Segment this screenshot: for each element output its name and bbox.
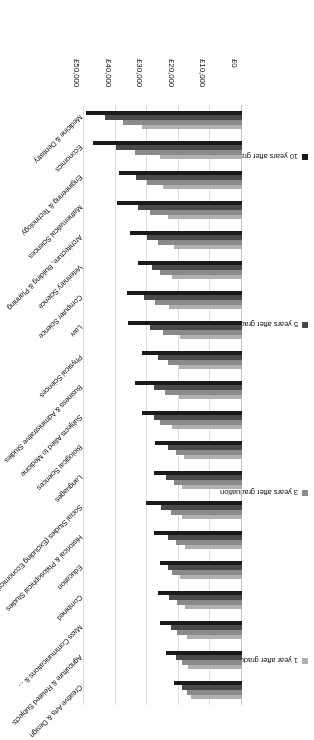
bar [176, 540, 242, 545]
bar [174, 245, 242, 250]
category-label: Architecture, Building & Planning [6, 233, 84, 311]
bar-group [84, 105, 242, 135]
bar [135, 381, 242, 386]
bar-group [84, 255, 242, 285]
x-tick-label: £0 [230, 59, 239, 68]
bar-group [84, 285, 242, 315]
category-label: Computer Science [37, 293, 84, 340]
bar [168, 360, 242, 365]
legend-swatch-icon [302, 490, 308, 496]
bar [177, 600, 242, 605]
bar [135, 150, 242, 155]
legend-item[interactable]: 10 years after graduation [244, 151, 308, 163]
x-tick-label: £10,000 [198, 59, 207, 87]
bar [187, 690, 242, 695]
bar [142, 351, 242, 356]
bar [184, 455, 242, 460]
category-label: Engineering & Technology [20, 173, 84, 237]
bar [174, 480, 242, 485]
bar-group [84, 585, 242, 615]
bar [177, 630, 242, 635]
x-tick-label: £20,000 [167, 59, 176, 87]
category-label: Historical & Philosophical Studies [4, 533, 84, 613]
bar [154, 471, 242, 476]
bar [160, 420, 242, 425]
bar [169, 595, 242, 600]
bar [86, 111, 242, 116]
bar [168, 565, 242, 570]
bar [150, 210, 242, 215]
category-label: Veterinary Science [36, 263, 83, 310]
bar [93, 141, 242, 146]
bar-group [84, 195, 242, 225]
category-label: Physical Sciences [38, 353, 84, 399]
bar [171, 625, 242, 630]
category-label: Law [69, 323, 84, 338]
bar [150, 325, 242, 330]
bar-group [84, 495, 242, 525]
bar [176, 450, 242, 455]
legend-item[interactable]: 5 years after graduation [244, 319, 308, 331]
category-label: Subjects Allied to Medicine [19, 413, 84, 478]
bar [182, 485, 242, 490]
legend-swatch-icon [302, 322, 308, 328]
legend-item[interactable]: 1 year after graduation [244, 655, 308, 667]
category-label: Creative Arts & Design [28, 683, 84, 739]
bar [127, 291, 242, 296]
bar [160, 621, 242, 626]
category-label: Medicine & Dentistry [32, 113, 83, 164]
legend-swatch-icon [302, 658, 308, 664]
bar [160, 561, 242, 566]
bar [136, 175, 242, 180]
bar [171, 510, 242, 515]
bar [158, 591, 242, 596]
legend-swatch-icon [302, 154, 308, 160]
category-label: Education [56, 563, 84, 591]
x-tick-label: £30,000 [135, 59, 144, 87]
bar [185, 545, 242, 550]
bar-group [84, 525, 242, 555]
bar [179, 365, 242, 370]
x-tick-label: £50,000 [72, 59, 81, 87]
bar [182, 660, 242, 665]
x-tick-label: £40,000 [104, 59, 113, 87]
category-label: Economics [54, 143, 84, 173]
bar-group [84, 465, 242, 495]
bar [142, 411, 242, 416]
chart-legend: 1 year after graduation3 years after gra… [244, 7, 308, 707]
category-label: Mathematical Sciences [27, 203, 84, 260]
bar [187, 635, 242, 640]
bar [155, 300, 242, 305]
bar [191, 695, 242, 700]
plot-area [84, 105, 242, 705]
bar [160, 270, 242, 275]
bar [179, 395, 242, 400]
bar [144, 295, 242, 300]
bar [130, 231, 242, 236]
bar-group [84, 675, 242, 705]
category-label: Biological Sciences [35, 443, 84, 492]
legend-item[interactable]: 3 years after graduation [244, 487, 308, 499]
bar-group [84, 435, 242, 465]
bar [182, 685, 242, 690]
bar [166, 475, 242, 480]
x-axis-tick-labels: £0£10,000£20,000£30,000£40,000£50,000 [84, 55, 242, 101]
bar [154, 385, 242, 390]
category-label: Agriculture & Related Subjects [10, 653, 83, 726]
bar [168, 535, 242, 540]
bar [180, 575, 242, 580]
bar [117, 201, 242, 206]
bar [169, 305, 242, 310]
bar [105, 115, 242, 120]
bar [158, 355, 242, 360]
bar [116, 145, 242, 150]
bar [166, 651, 242, 656]
bar [168, 215, 242, 220]
bar [180, 335, 242, 340]
bar-group [84, 405, 242, 435]
category-label: Combined [55, 593, 84, 622]
bar [152, 265, 242, 270]
bar-group [84, 225, 242, 255]
bar [165, 390, 242, 395]
